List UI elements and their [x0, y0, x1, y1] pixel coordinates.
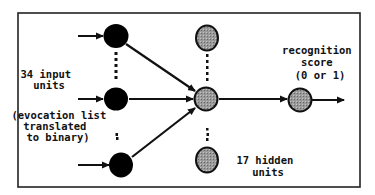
label-hidden-units: 17 hidden units — [236, 154, 299, 178]
label-input-units: 34 input units — [21, 68, 78, 91]
label-evocation: (evocation list translated to binary) — [11, 109, 112, 143]
neural-network-diagram: 34 input units (evocation list translate… — [0, 0, 375, 195]
hidden-ellipsis-top — [206, 54, 209, 81]
hidden-node-2 — [195, 88, 218, 111]
input-node-2 — [104, 88, 128, 111]
connection-in1-h2 — [126, 44, 195, 91]
output-node — [289, 89, 312, 112]
hidden-node-3 — [196, 148, 218, 173]
hidden-ellipsis-bottom — [206, 128, 209, 141]
input-ellipsis-top — [115, 52, 118, 79]
label-recognition-score: recognition score (0 or 1) — [282, 44, 358, 81]
input-ellipsis-bottom — [116, 133, 119, 140]
connection-in3-h2 — [132, 108, 195, 157]
hidden-node-1 — [196, 26, 218, 51]
input-node-1 — [104, 24, 129, 48]
input-node-3 — [109, 153, 133, 178]
